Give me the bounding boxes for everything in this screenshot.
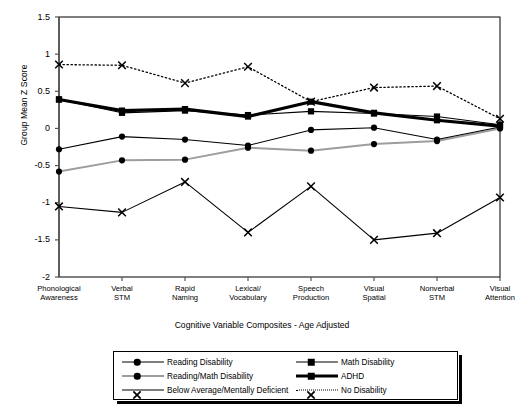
data-point-square: [119, 108, 125, 114]
series-reading-math-disability: [56, 125, 503, 174]
legend-label: ADHD: [341, 372, 364, 381]
data-point-square: [497, 123, 503, 129]
legend-line: [122, 390, 164, 391]
legend-swatch: [296, 370, 338, 382]
legend-marker-square-icon: [308, 359, 315, 366]
legend-label: Reading Disability: [167, 358, 233, 367]
legend-swatch: [122, 356, 164, 368]
legend-label: Reading/Math Disability: [167, 372, 253, 381]
data-point-circle: [371, 125, 377, 131]
chart-figure: Group Mean Z Score 1.510.50-0.5-1-1.5-2 …: [0, 0, 524, 407]
legend-label: Math Disability: [341, 358, 394, 367]
legend-entry[interactable]: Math Disability: [296, 355, 394, 369]
legend-shadow-bottom: [117, 401, 462, 404]
data-point-circle: [182, 136, 188, 142]
chart-legend: Reading DisabilityMath DisabilityReading…: [113, 351, 458, 400]
legend-line: [296, 375, 338, 378]
data-point-circle: [56, 146, 62, 152]
data-point-circle: [308, 127, 314, 133]
legend-line: [122, 375, 164, 377]
legend-line: [122, 362, 164, 363]
legend-marker-square-icon: [308, 373, 315, 380]
legend-label: Below Average/Mentally Deficient: [167, 386, 288, 395]
legend-swatch: [296, 384, 338, 396]
legend-swatch: [296, 356, 338, 368]
x-axis-title: Cognitive Variable Composites - Age Adju…: [0, 320, 524, 330]
plot-area: [0, 0, 524, 407]
legend-marker-circle-icon: [134, 359, 141, 366]
legend-line: [296, 390, 338, 391]
data-point-circle: [371, 141, 377, 147]
legend-entry[interactable]: Reading Disability: [122, 355, 233, 369]
data-point-square: [371, 110, 377, 116]
data-point-square: [434, 117, 440, 123]
series-line: [59, 128, 500, 171]
plot-frame: [59, 17, 500, 277]
data-point-circle: [434, 136, 440, 142]
series-below-average-mentally-deficient: [55, 178, 504, 244]
legend-swatch: [122, 370, 164, 382]
legend-line: [296, 362, 338, 363]
data-point-square: [56, 96, 62, 102]
legend-marker-x-icon: [307, 386, 316, 395]
legend-label: No Disability: [341, 386, 387, 395]
data-point-circle: [245, 142, 251, 148]
data-point-square: [308, 99, 314, 105]
data-point-circle: [182, 157, 188, 163]
series-line: [59, 127, 500, 149]
legend-entry[interactable]: No Disability: [296, 383, 387, 397]
data-point-circle: [119, 134, 125, 140]
legend-entry[interactable]: Below Average/Mentally Deficient: [122, 383, 288, 397]
legend-shadow-right: [459, 355, 462, 404]
legend-marker-circle-icon: [134, 373, 141, 380]
series-reading-disability: [56, 124, 503, 152]
data-point-circle: [119, 157, 125, 163]
data-point-circle: [308, 148, 314, 154]
legend-entry[interactable]: ADHD: [296, 369, 364, 383]
data-point-square: [245, 113, 251, 119]
series-line: [59, 182, 500, 240]
legend-entry[interactable]: Reading/Math Disability: [122, 369, 253, 383]
legend-swatch: [122, 384, 164, 396]
data-point-circle: [56, 168, 62, 174]
data-point-square: [308, 108, 314, 114]
legend-marker-x-icon: [133, 386, 142, 395]
data-point-square: [182, 106, 188, 112]
